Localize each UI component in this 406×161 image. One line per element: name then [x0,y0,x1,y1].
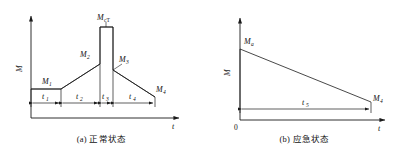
label-ma: M a [243,37,254,47]
label-t2-base: t [76,92,79,101]
caption-panel-a: (a) 正常状态 [0,132,203,144]
y-axis-label-b: M [223,68,232,77]
label-m4: M 4 [155,85,166,95]
label-t4-sub: 4 [133,96,136,102]
label-m1-sub: 1 [49,81,52,87]
label-t4-base: t [129,92,132,101]
label-mct-sub: cT [104,17,110,23]
label-t1-base: t [42,92,45,101]
leader-m3 [113,64,122,70]
label-m4-sub: 4 [163,89,166,95]
panel-b-drawing: M t 0 M a M 4 t 5 [203,0,406,132]
origin-label-b: 0 [234,123,238,132]
label-t3-sub: 3 [105,96,109,102]
label-t5-sub: 5 [306,102,309,108]
label-t5-base: t [302,98,305,107]
label-m3-sub: 3 [125,59,129,65]
panel-emergency-state: M t 0 M a M 4 t 5 [203,0,406,161]
label-ma-sub: a [251,41,254,47]
label-t5: t 5 [302,98,309,108]
panel-normal-state: M t M 1 M 2 M cT M 3 [0,0,203,161]
label-m2-sub: 2 [87,54,90,60]
caption-b-text: 应急状态 [293,134,330,144]
label-t2-sub: 2 [80,96,83,102]
caption-panel-b: (b) 应急状态 [203,132,406,144]
label-m4-b: M 4 [372,94,383,104]
figure-container: M t M 1 M 2 M cT M 3 [0,0,406,161]
label-t1-sub: 1 [46,96,49,102]
caption-a-index: (a) [77,134,87,144]
caption-b-index: (b) [280,134,291,144]
label-mct: M cT [96,13,110,23]
label-t3: t 3 [102,92,109,102]
label-t3-base: t [102,92,105,101]
caption-a-text: 正常状态 [89,134,126,144]
label-t2: t 2 [76,92,83,102]
label-m3: M 3 [118,55,129,65]
emergency-state-curve [240,49,371,102]
x-axis-label-b: t [378,124,381,132]
ramp-segment-m2 [61,64,100,89]
label-m1: M 1 [41,77,52,87]
panel-a-drawing: M t M 1 M 2 M cT M 3 [0,0,203,132]
label-t1: t 1 [42,92,49,102]
decline-segment [113,70,155,97]
label-m2: M 2 [79,50,90,60]
x-axis-label-a: t [172,122,175,131]
label-t4: t 4 [129,92,136,102]
y-axis-label-a: M [15,64,24,73]
label-m4b-sub: 4 [380,98,383,104]
